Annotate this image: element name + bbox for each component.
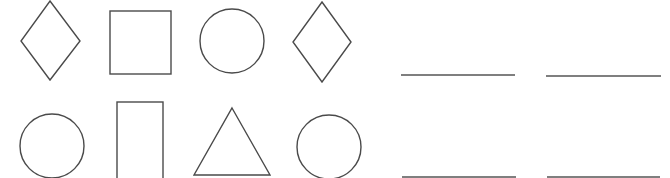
circle-shape-2 bbox=[20, 114, 84, 178]
triangle-shape bbox=[194, 108, 270, 175]
pattern-row-2 bbox=[20, 102, 660, 178]
worksheet-drawing bbox=[0, 0, 670, 178]
shape-pattern-worksheet bbox=[0, 0, 670, 178]
circle-shape-3 bbox=[297, 115, 361, 178]
diamond-shape-1 bbox=[21, 1, 80, 80]
rectangle-shape bbox=[117, 102, 163, 178]
square-shape bbox=[110, 11, 171, 74]
diamond-shape-2 bbox=[293, 2, 351, 82]
circle-shape-1 bbox=[200, 9, 264, 73]
pattern-row-1 bbox=[21, 1, 661, 82]
